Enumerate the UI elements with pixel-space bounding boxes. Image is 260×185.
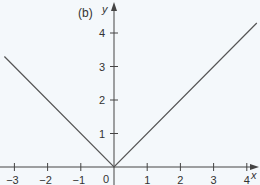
axes <box>0 2 259 185</box>
y-tick-label: 2 <box>99 94 105 106</box>
x-tick-label: 1 <box>144 174 150 185</box>
x-axis-label: x <box>250 169 257 181</box>
chart-container: (b) −3−2−112341234 x y 0 <box>0 0 260 185</box>
x-tick-label: 2 <box>177 174 183 185</box>
y-tick-label: 3 <box>99 61 105 73</box>
x-tick-label: −3 <box>6 174 19 185</box>
y-tick-label: 4 <box>99 27 105 39</box>
x-tick-label: −2 <box>39 174 52 185</box>
data-series <box>4 23 256 167</box>
y-axis-label: y <box>101 3 109 15</box>
x-tick-label: 3 <box>211 174 217 185</box>
y-tick-label: 1 <box>99 128 105 140</box>
origin-label: 0 <box>103 173 109 185</box>
y-axis-arrow-icon <box>111 2 117 11</box>
chart-title: (b) <box>78 6 93 20</box>
tick-marks: −3−2−112341234 <box>6 27 250 185</box>
x-tick-label: −1 <box>73 174 86 185</box>
x-tick-label: 4 <box>244 174 250 185</box>
series-line <box>4 23 256 167</box>
plot-area: (b) −3−2−112341234 x y 0 <box>0 0 260 185</box>
